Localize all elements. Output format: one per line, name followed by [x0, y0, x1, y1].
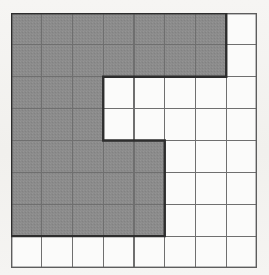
figure-caption: A grid of unit squares with a contiguous… — [0, 0, 1, 1]
grid-diagram — [11, 13, 257, 268]
grid-figure — [11, 13, 257, 268]
shaded-band-bottom — [11, 141, 165, 237]
